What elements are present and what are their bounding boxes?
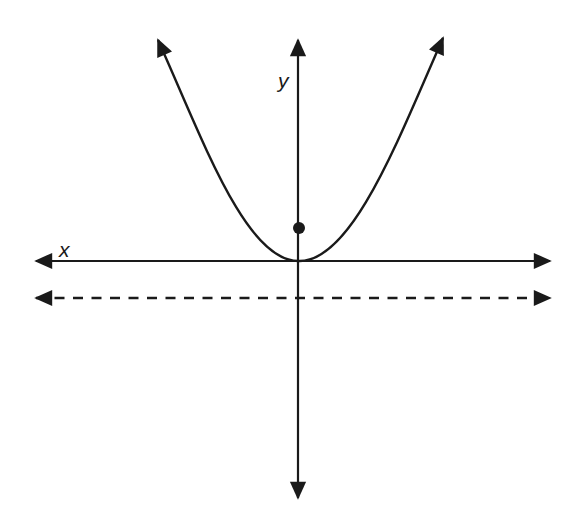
focus-point (293, 222, 305, 234)
y-axis-label: y (276, 69, 290, 92)
x-axis-label: x (58, 238, 71, 261)
parabola-diagram: y x (0, 0, 575, 530)
